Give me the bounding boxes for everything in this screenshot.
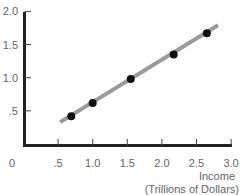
x-tick-label: 2.0	[154, 157, 169, 169]
data-point	[67, 112, 75, 120]
y-axis-ticks: .51.01.52.0	[3, 5, 31, 116]
x-axis-ticks: .51.01.52.02.53.0	[54, 139, 239, 169]
y-tick-label: 2.0	[3, 5, 18, 17]
x-tick-label: .5	[54, 157, 63, 169]
data-point	[170, 50, 178, 58]
x-axis-subtitle: (Trillions of Dollars)	[145, 183, 239, 195]
x-tick-label: 1.0	[85, 157, 100, 169]
x-axis-title: Income	[199, 170, 235, 182]
y-tick-label: 1.0	[3, 72, 18, 84]
data-point	[89, 99, 97, 107]
x-tick-label: 2.5	[189, 157, 204, 169]
y-tick-label: 1.5	[3, 39, 18, 51]
origin-label: 0	[9, 157, 15, 169]
data-point	[203, 29, 211, 37]
scatter-chart: .51.01.52.0 .51.01.52.02.53.0 0 Income (…	[0, 0, 242, 195]
regression-line	[60, 25, 218, 122]
x-tick-label: 1.5	[120, 157, 135, 169]
fit-line	[60, 25, 218, 122]
y-tick-label: .5	[9, 105, 18, 117]
x-tick-label: 3.0	[223, 157, 238, 169]
data-point	[127, 75, 135, 83]
